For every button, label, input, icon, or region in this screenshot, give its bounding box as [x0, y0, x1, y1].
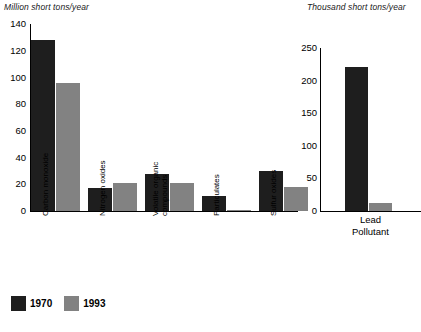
bar-1970-lead	[345, 67, 368, 211]
left-chart-xtick-carbon-monoxide: Carbon monoxide	[42, 153, 51, 216]
left-chart-ytick-120: 120	[0, 46, 26, 56]
legend-label-1970: 1970	[30, 298, 52, 309]
left-chart-xtick-volatile-organic-compounds: Volatile organic compounds	[152, 132, 169, 216]
bar-group-nitrogen-oxides	[88, 24, 140, 211]
legend-label-1993: 1993	[83, 298, 105, 309]
bar-1993-nitrogen-oxides	[113, 183, 137, 211]
left-chart-ytick-20: 20	[0, 179, 26, 189]
left-chart-xtick-nitrogen-oxides: Nitrogen oxides	[99, 160, 108, 216]
legend: 1970 1993	[11, 296, 106, 311]
legend-item-1970: 1970	[11, 296, 52, 311]
right-chart-ytick-50: 50	[300, 173, 317, 183]
right-chart-bars-layer	[321, 48, 421, 211]
left-chart-axis-title: Million short tons/year	[4, 2, 89, 12]
right-chart-xtick-lead: Lead	[320, 214, 421, 225]
right-chart-x-axis-label: Pollutant	[320, 226, 421, 237]
right-chart-ytick-0: 0	[300, 206, 317, 216]
right-chart-ytick-200: 200	[300, 76, 317, 86]
legend-swatch-1993-icon	[64, 296, 79, 311]
left-chart-ytick-100: 100	[0, 73, 26, 83]
legend-swatch-1970-icon	[11, 296, 26, 311]
bar-group-particulates	[202, 24, 254, 211]
legend-item-1993: 1993	[64, 296, 105, 311]
right-chart-ytick-250: 250	[300, 43, 317, 53]
left-chart-ytick-40: 40	[0, 153, 26, 163]
right-chart-axis-title: Thousand short tons/year	[307, 2, 406, 12]
bar-group-lead	[345, 48, 397, 211]
left-chart-ytick-60: 60	[0, 126, 26, 136]
left-chart-ytick-0: 0	[0, 206, 26, 216]
bar-1993-lead	[369, 203, 392, 212]
right-chart-plot-area: 250 200 150 100 50 0 Lead Pollutant	[300, 18, 421, 218]
bar-group-carbon-monoxide	[31, 24, 83, 211]
left-chart-xtick-sulfur-oxides: Sulfur oxides	[270, 170, 279, 216]
right-chart-ytick-150: 150	[300, 108, 317, 118]
left-chart-ytick-140: 140	[0, 19, 26, 29]
right-chart-ytick-100: 100	[300, 141, 317, 151]
bar-1993-particulates	[227, 210, 251, 211]
bar-1993-carbon-monoxide	[56, 83, 80, 211]
bar-1993-volatile-organic-compounds	[170, 183, 194, 211]
figure: Million short tons/year 140 120 100 80 6…	[0, 0, 421, 332]
left-chart-ytick-80: 80	[0, 99, 26, 109]
left-chart-xtick-particulates: Particulates	[213, 174, 222, 216]
